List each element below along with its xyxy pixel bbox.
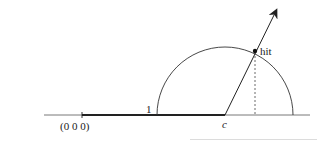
bottom-rule	[190, 139, 317, 140]
sphere-semicircle	[157, 47, 293, 115]
ray-sphere-diagram: (0 0 0) 1 c hit	[0, 0, 317, 142]
hit-point-dot	[253, 49, 257, 53]
hit-label: hit	[260, 45, 272, 57]
center-label: c	[222, 118, 227, 130]
unit-label: 1	[146, 103, 152, 115]
origin-label: (0 0 0)	[60, 120, 90, 133]
